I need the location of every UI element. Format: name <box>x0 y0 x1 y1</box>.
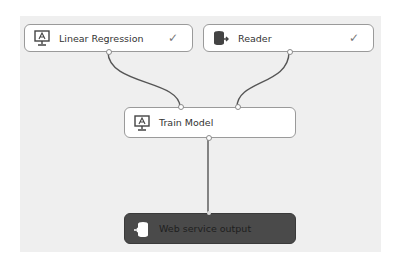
module-label: Reader <box>238 33 349 44</box>
web-service-output-icon <box>133 220 151 238</box>
output-port[interactable] <box>106 49 112 55</box>
database-reader-icon <box>212 29 230 47</box>
module-linear-regression[interactable]: Linear Regression ✓ <box>24 24 193 52</box>
model-icon <box>33 29 51 47</box>
input-port-left[interactable] <box>178 104 184 110</box>
check-icon: ✓ <box>168 31 178 45</box>
module-web-service-output[interactable]: Web service output <box>124 213 296 244</box>
model-icon <box>133 114 151 132</box>
input-port[interactable] <box>207 211 211 215</box>
output-port[interactable] <box>287 49 293 55</box>
module-label: Web service output <box>159 223 295 234</box>
module-label: Train Model <box>159 117 295 128</box>
module-train-model[interactable]: Train Model <box>124 107 296 138</box>
output-port[interactable] <box>206 135 212 141</box>
input-port-right[interactable] <box>235 104 241 110</box>
check-icon: ✓ <box>349 31 359 45</box>
module-label: Linear Regression <box>59 33 168 44</box>
module-reader[interactable]: Reader ✓ <box>203 24 374 52</box>
